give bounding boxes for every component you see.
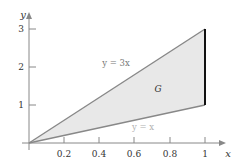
region-label-g: G xyxy=(154,84,161,94)
y-axis-label: y xyxy=(19,9,26,20)
y-tick-label: 3 xyxy=(18,24,24,34)
x-axis-arrow-icon xyxy=(219,140,226,146)
y-tick-label: 2 xyxy=(18,62,24,72)
curve-label-y-3x: y = 3x xyxy=(101,58,130,68)
y-axis-arrow-icon xyxy=(26,12,32,19)
x-tick-label: 1 xyxy=(202,149,208,159)
x-ticks xyxy=(64,137,205,143)
x-axis-label: x xyxy=(225,148,231,159)
curve-label-y-x: y = x xyxy=(131,122,154,132)
x-tick-label: 0.8 xyxy=(163,149,178,159)
x-tick-label: 0.2 xyxy=(57,149,71,159)
y-ticks xyxy=(29,29,36,105)
x-tick-label: 0.6 xyxy=(127,149,142,159)
y-tick-label: 1 xyxy=(18,100,24,110)
x-tick-label: 0.4 xyxy=(92,149,107,159)
region-plot: 0.2 0.4 0.6 0.8 1 1 2 3 x y y = 3x y = x… xyxy=(0,0,240,164)
